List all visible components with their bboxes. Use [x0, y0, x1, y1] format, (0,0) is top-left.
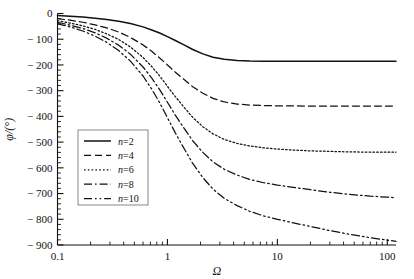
y-axis-tick-label: − 900: [27, 239, 53, 251]
y-axis-tick-label: − 800: [27, 213, 53, 225]
phase-response-chart: 0− 100− 200− 300− 400− 500− 600− 700− 80…: [0, 0, 414, 279]
x-axis-tick-label: 10: [272, 250, 284, 262]
y-axis-tick-label: − 200: [27, 59, 53, 71]
legend-label-n8: n=8: [118, 179, 134, 190]
x-axis-tick-label: 100: [379, 250, 396, 262]
legend-label-n6: n=6: [118, 164, 134, 175]
legend-label-n10: n=10: [118, 193, 139, 204]
chart-background: [0, 0, 414, 279]
y-axis-tick-label: − 100: [27, 33, 53, 45]
y-axis-title: φ/(°): [2, 118, 16, 141]
chart-figure: 0− 100− 200− 300− 400− 500− 600− 700− 80…: [0, 0, 414, 279]
y-axis-tick-label: − 300: [27, 84, 53, 96]
y-axis-tick-label: 0: [47, 7, 53, 19]
x-axis-title: Ω: [212, 264, 221, 278]
y-axis-tick-label: − 700: [27, 187, 53, 199]
y-axis-tick-label: − 500: [27, 136, 53, 148]
x-axis-tick-label: 1: [165, 250, 171, 262]
y-axis-tick-label: − 400: [27, 110, 53, 122]
y-axis-tick-label: − 600: [27, 162, 53, 174]
legend-label-n2: n=2: [118, 136, 134, 147]
x-axis-tick-label: 0.1: [51, 250, 65, 262]
chart-legend: n=2n=4n=6n=8n=10: [78, 130, 148, 205]
legend-label-n4: n=4: [118, 150, 134, 161]
